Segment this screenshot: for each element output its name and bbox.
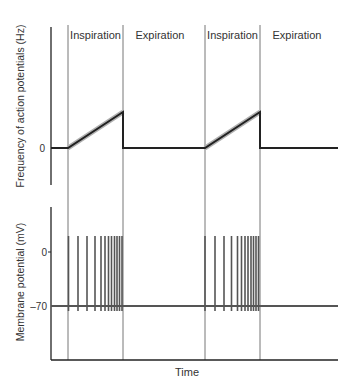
x-axis-label: Time	[175, 366, 199, 378]
phase-label: Inspiration	[70, 29, 121, 41]
bottom-tick-zero: 0	[41, 247, 47, 258]
spike-train	[69, 236, 123, 311]
respiratory-neuron-diagram: Inspiration Expiration Inspiration Expir…	[0, 0, 352, 387]
frequency-trace	[51, 112, 338, 148]
top-tick-zero: 0	[39, 143, 45, 154]
phase-label: Inspiration	[207, 29, 258, 41]
bottom-y-label: Membrane potential (mV)	[14, 223, 26, 341]
bottom-tick-minus70: –70	[30, 301, 47, 312]
spike-train	[205, 236, 259, 311]
phase-label: Expiration	[136, 29, 185, 41]
phase-label: Expiration	[273, 29, 322, 41]
top-y-label: Frequency of action potentials (Hz)	[14, 25, 26, 188]
